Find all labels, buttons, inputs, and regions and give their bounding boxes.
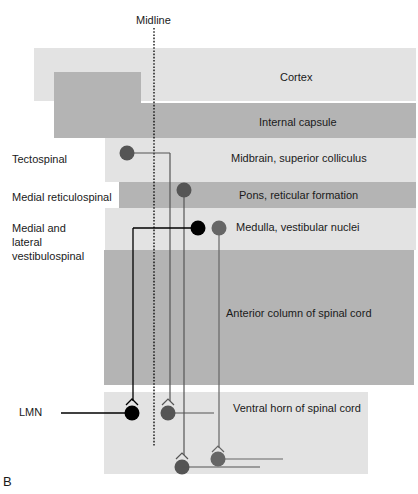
pathway-diagram (0, 0, 418, 494)
lateral-vestibulospinal-soma (212, 221, 227, 236)
tectospinal-soma (120, 146, 135, 161)
reticulospinal-soma (177, 183, 192, 198)
medial-vestibulospinal-soma (191, 221, 206, 236)
lateral-vestibulospinal-tract (211, 221, 284, 467)
tectospinal-tract (120, 146, 215, 421)
